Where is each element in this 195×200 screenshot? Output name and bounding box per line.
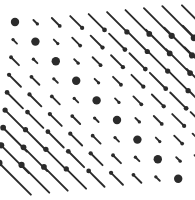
vector-glyph <box>52 18 62 28</box>
glyph-shaft <box>50 114 62 126</box>
glyph-head-dot <box>48 112 52 116</box>
glyph-head-dot <box>154 175 157 178</box>
glyph-head-dot <box>66 149 71 154</box>
glyph-head-dot <box>78 44 82 48</box>
glyph-head-dot <box>113 136 116 139</box>
vector-glyph <box>89 14 107 32</box>
glyph-shaft <box>193 134 195 146</box>
vector-glyph <box>152 94 166 108</box>
glyph-head-dot <box>123 47 128 52</box>
glyph-head-dot <box>68 132 72 136</box>
vector-glyph <box>107 12 129 34</box>
glyph-shaft <box>48 132 64 148</box>
vector-glyph <box>191 112 195 130</box>
glyph-shaft <box>168 71 188 91</box>
glyph-head-dot <box>21 144 27 150</box>
glyph-shaft <box>131 75 143 87</box>
glyph-head-dot <box>134 156 137 159</box>
glyph-shaft <box>189 91 195 111</box>
glyph-head-dot <box>100 45 104 49</box>
vector-glyph <box>86 169 104 187</box>
glyph-shaft <box>89 14 105 30</box>
glyph-head-dot <box>2 107 7 112</box>
glyph-head-dot <box>102 28 107 33</box>
vector-glyph <box>109 171 123 185</box>
zero-glyph-dot <box>133 135 141 143</box>
glyph-head-dot <box>111 153 115 157</box>
glyph-shaft <box>150 73 166 89</box>
glyph-head-dot <box>158 140 161 143</box>
vector-glyph <box>46 129 64 147</box>
vector-glyph <box>176 157 182 163</box>
vector-glyph <box>64 166 86 188</box>
vector-glyph <box>32 58 38 64</box>
glyph-shaft <box>172 114 184 126</box>
glyph-head-dot <box>179 160 182 163</box>
glyph-shaft <box>5 110 25 130</box>
glyph-shaft <box>9 75 21 87</box>
glyph-head-dot <box>46 129 51 134</box>
vector-glyph <box>168 71 190 93</box>
glyph-head-dot <box>182 124 186 128</box>
glyph-head-dot <box>113 116 121 124</box>
glyph-shaft <box>44 167 68 191</box>
zero-glyph-dot <box>113 116 121 124</box>
vector-glyph <box>135 118 141 124</box>
glyph-head-dot <box>77 62 80 65</box>
glyph-head-dot <box>121 65 125 69</box>
zero-glyph-dot <box>92 96 100 104</box>
vector-glyph <box>172 114 186 128</box>
glyph-head-dot <box>27 92 31 96</box>
glyph-head-dot <box>154 155 162 163</box>
glyph-head-dot <box>117 101 120 104</box>
glyph-shaft <box>70 134 82 146</box>
vector-glyph <box>50 95 60 105</box>
glyph-head-dot <box>180 142 184 146</box>
glyph-shaft <box>68 151 84 167</box>
vector-glyph <box>11 38 17 44</box>
vector-glyph <box>170 92 188 110</box>
glyph-head-dot <box>133 135 141 143</box>
glyph-head-dot <box>132 173 136 177</box>
glyph-shaft <box>66 169 86 189</box>
vector-glyph <box>70 114 80 124</box>
vector-glyph <box>162 6 195 41</box>
vector-glyph <box>2 107 24 129</box>
vector-glyph <box>148 51 170 73</box>
glyph-head-dot <box>72 77 80 85</box>
glyph-head-dot <box>109 171 113 175</box>
zero-glyph-dot <box>52 57 60 65</box>
glyph-head-dot <box>25 110 30 115</box>
glyph-head-dot <box>162 104 166 108</box>
glyph-head-dot <box>31 37 39 45</box>
glyph-head-dot <box>91 134 95 138</box>
vector-glyph <box>132 173 142 183</box>
vector-glyph <box>150 73 168 91</box>
glyph-shaft <box>70 16 82 28</box>
vector-glyph <box>33 20 39 26</box>
glyph-shaft <box>191 112 195 128</box>
glyph-head-dot <box>43 147 48 152</box>
glyph-head-dot <box>141 85 145 89</box>
glyph-shaft <box>129 53 145 69</box>
vector-glyph <box>91 134 101 144</box>
glyph-head-dot <box>174 175 182 183</box>
glyph-shaft <box>89 171 105 187</box>
zero-glyph-dot <box>11 18 19 26</box>
vector-glyph <box>95 79 101 85</box>
vector-glyph <box>52 77 58 83</box>
glyph-head-dot <box>11 18 19 26</box>
glyph-shaft <box>170 92 186 108</box>
zero-glyph-dot <box>31 37 39 45</box>
glyph-head-dot <box>7 73 11 77</box>
vector-glyph <box>91 36 105 50</box>
glyph-shaft <box>46 149 66 169</box>
glyph-head-dot <box>73 97 76 100</box>
zero-glyph-dot <box>174 175 182 183</box>
glyph-shaft <box>128 32 148 52</box>
glyph-head-dot <box>23 127 28 132</box>
glyph-shaft <box>0 163 31 195</box>
glyph-head-dot <box>64 166 69 171</box>
vector-glyph <box>43 147 65 169</box>
vector-glyph <box>5 90 23 108</box>
